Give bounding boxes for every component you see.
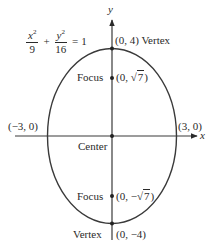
bottom-vertex-text: Vertex bbox=[73, 229, 102, 240]
ellipse-equation: x2 9 + y2 16 = 1 bbox=[24, 26, 87, 56]
bottom-vertex-point bbox=[110, 222, 114, 226]
x-denominator: 9 bbox=[29, 43, 35, 56]
y-denominator: 16 bbox=[55, 43, 66, 56]
top-vertex-coords: (0, 4) bbox=[115, 34, 139, 46]
left-vertex-coords: (−3, 0) bbox=[8, 121, 38, 132]
center-label: Center bbox=[78, 141, 107, 152]
plus-sign: + bbox=[43, 35, 49, 47]
upper-focus-coords-suffix: ) bbox=[144, 71, 148, 83]
top-vertex-label: (0, 4) Vertex bbox=[115, 35, 170, 46]
fraction-x-term: x2 9 bbox=[26, 26, 38, 56]
lower-focus-text: Focus bbox=[77, 191, 103, 202]
upper-focus-text: Focus bbox=[77, 72, 103, 83]
right-vertex-coords: (3, 0) bbox=[178, 121, 202, 132]
lower-focus-coords: (0, −√7) bbox=[116, 191, 154, 202]
top-vertex-point bbox=[110, 47, 114, 51]
center-point bbox=[110, 134, 114, 138]
y-axis-label: y bbox=[108, 4, 113, 15]
y-exponent: 2 bbox=[62, 28, 66, 36]
upper-focus-coords: (0, √7) bbox=[116, 72, 148, 83]
upper-focus-coords-prefix: (0, bbox=[116, 71, 131, 83]
sqrt-symbol: √7 bbox=[137, 191, 151, 202]
equation-rhs: 1 bbox=[81, 35, 87, 47]
lower-focus-point bbox=[110, 194, 114, 198]
x-exponent: 2 bbox=[33, 28, 37, 36]
fraction-y-term: y2 16 bbox=[55, 26, 67, 56]
lower-focus-coords-prefix: (0, − bbox=[116, 190, 137, 202]
top-vertex-text: Vertex bbox=[141, 34, 170, 46]
bottom-vertex-coords: (0, −4) bbox=[116, 229, 146, 240]
equals-sign: = bbox=[72, 35, 78, 47]
upper-focus-point bbox=[110, 76, 114, 80]
sqrt-symbol: √7 bbox=[131, 72, 145, 83]
lower-focus-coords-suffix: ) bbox=[150, 190, 154, 202]
